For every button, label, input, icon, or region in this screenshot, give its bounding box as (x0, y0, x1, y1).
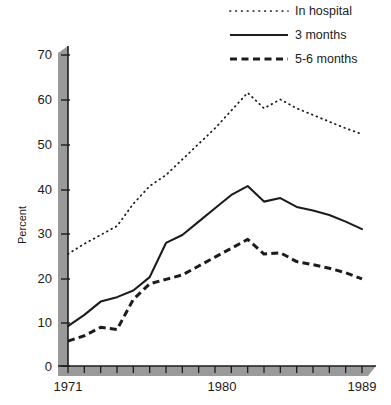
line-chart: 70 60 50 40 30 20 10 0 Percent 1971 1980… (0, 0, 391, 405)
y-axis-band (58, 46, 68, 366)
y-tick-label-20: 20 (38, 271, 52, 286)
series-line-in-hospital (68, 93, 362, 254)
data-series-group (68, 93, 362, 341)
x-axis-band (58, 366, 376, 376)
x-tick-label-end: 1989 (348, 379, 377, 394)
y-axis-title: Percent (16, 206, 28, 244)
y-tick-label-60: 60 (38, 92, 52, 107)
y-tick-label-50: 50 (38, 137, 52, 152)
y-tick-label-0: 0 (45, 359, 52, 374)
legend-label-5-6-months: 5-6 months (295, 52, 358, 66)
y-tick-label-30: 30 (38, 226, 52, 241)
y-tick-label-70: 70 (38, 47, 52, 62)
y-tick-label-10: 10 (38, 315, 52, 330)
legend: In hospital 3 months 5-6 months (230, 4, 358, 66)
chart-container: 70 60 50 40 30 20 10 0 Percent 1971 1980… (0, 0, 391, 405)
x-tick-label-start: 1971 (54, 379, 83, 394)
series-line-5-6-months (68, 239, 362, 341)
y-tick-label-40: 40 (38, 182, 52, 197)
legend-label-in-hospital: In hospital (295, 4, 352, 18)
x-tick-label-mid: 1980 (208, 379, 237, 394)
legend-label-3-months: 3 months (295, 28, 346, 42)
